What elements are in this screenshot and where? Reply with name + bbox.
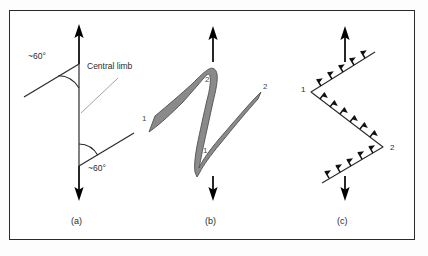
panel-a-caption: (a): [71, 216, 82, 226]
panel-a-upper-limb: [24, 64, 79, 97]
panel-b-folded-band: [149, 68, 261, 177]
panel-b-label-upper-hinge-2: 2: [205, 75, 210, 84]
panel-c-barbs-segment-lower: [325, 143, 378, 178]
panel-a-central-limb-label: Central limb: [87, 61, 133, 71]
panel-b-label-upper-right-2: 2: [263, 82, 268, 91]
panel-c-label-hinge-1: 1: [301, 85, 306, 94]
panel-a-lower-limb: [79, 133, 134, 166]
panel-c-arrow-down-icon: [340, 176, 349, 201]
panel-b-caption: (b): [205, 216, 216, 226]
panel-c-arrow-up-icon: [340, 26, 349, 62]
panel-a-arrow-up-icon: [74, 24, 83, 64]
panel-a-angle-bottom-label: ~60°: [88, 163, 106, 173]
panel-a-angle-top-label: ~60°: [28, 51, 46, 61]
panel-a-angle-arc-top: [59, 76, 80, 88]
panel-c-barbs-segment-middle: [320, 93, 379, 141]
panel-c: 1 2 (c): [301, 26, 395, 226]
panel-b-arrow-down-icon: [208, 176, 217, 201]
panel-b-arrow-up-icon: [208, 26, 217, 62]
figure-root: ~60° ~60° Central limb (a) 1 2 1 2: [0, 0, 428, 256]
panel-c-barbs-segment-upper: [317, 48, 370, 86]
panel-a: ~60° ~60° Central limb (a): [24, 24, 134, 226]
panel-c-caption: (c): [337, 216, 348, 226]
panel-b-label-lower-left-1: 1: [142, 114, 147, 123]
panel-c-label-hinge-2: 2: [390, 143, 395, 152]
panel-a-arrow-down-icon: [74, 166, 83, 201]
panel-a-angle-arc-bottom: [79, 144, 98, 155]
panel-a-central-limb-leader: [81, 78, 118, 113]
panel-b-label-lower-hinge-1: 1: [203, 146, 208, 155]
figure-canvas: ~60° ~60° Central limb (a) 1 2 1 2: [0, 0, 428, 256]
panel-b: 1 2 1 2 (b): [142, 26, 268, 226]
panel-c-zigzag-trace: [311, 52, 383, 183]
